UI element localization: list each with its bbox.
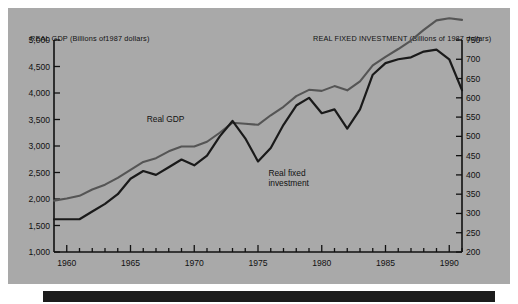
chart-screenshot: REAL GDP (Billions of1987 dollars) REAL … [0, 0, 518, 304]
left-axis-label-4000: 4,000 [16, 88, 50, 98]
right-axis-label-600: 600 [466, 93, 500, 103]
left-axis-label-2500: 2,500 [16, 168, 50, 178]
left-axis-label-3500: 3,500 [16, 115, 50, 125]
left-axis-label-2000: 2,000 [16, 194, 50, 204]
x-axis-label-1960: 1960 [47, 258, 87, 268]
right-axis-label-400: 400 [466, 170, 500, 180]
series-line-real-fixed-investment [54, 50, 462, 220]
annotation-real-gdp: Real GDP [147, 115, 185, 125]
right-axis-label-750: 750 [466, 35, 500, 45]
footer-bar [43, 291, 495, 302]
x-axis-label-1985: 1985 [366, 258, 406, 268]
right-axis-label-250: 250 [466, 228, 500, 238]
left-axis-label-5000: 5,000 [16, 35, 50, 45]
right-axis-label-450: 450 [466, 151, 500, 161]
right-axis-label-200: 200 [466, 247, 500, 257]
annotation-real-fixed-investment: Real fixed investment [268, 169, 309, 188]
chart-plot [8, 8, 510, 284]
right-axis-ticks [456, 40, 462, 252]
x-axis-label-1970: 1970 [174, 258, 214, 268]
right-axis-label-550: 550 [466, 112, 500, 122]
left-axis-label-1500: 1,500 [16, 221, 50, 231]
right-axis-label-350: 350 [466, 189, 500, 199]
left-axis-label-3000: 3,000 [16, 141, 50, 151]
x-axis-label-1965: 1965 [111, 258, 151, 268]
left-axis-label-4500: 4,500 [16, 62, 50, 72]
left-axis-label-1000: 1,000 [16, 247, 50, 257]
x-axis-ticks [67, 245, 462, 252]
x-axis-label-1990: 1990 [429, 258, 469, 268]
chart-panel: REAL GDP (Billions of1987 dollars) REAL … [8, 8, 510, 284]
right-axis-label-700: 700 [466, 54, 500, 64]
series-line-real-gdp [54, 18, 462, 200]
x-axis-label-1975: 1975 [238, 258, 278, 268]
right-axis-label-300: 300 [466, 208, 500, 218]
right-axis-label-650: 650 [466, 74, 500, 84]
right-axis-label-500: 500 [466, 131, 500, 141]
x-axis-label-1980: 1980 [302, 258, 342, 268]
